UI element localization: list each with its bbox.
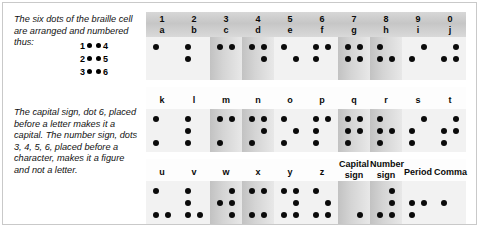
column-header-label: j xyxy=(434,25,466,35)
braille-dot-3-icon xyxy=(281,140,287,146)
braille-dot-4-icon xyxy=(357,116,363,122)
column-header-top: 6 xyxy=(306,14,338,24)
braille-cell-h xyxy=(370,37,402,80)
braille-chart-figure: The six dots of the braille cell are arr… xyxy=(0,0,479,227)
column-header-top: 9 xyxy=(402,14,434,24)
braille-dot-5-icon xyxy=(389,128,395,134)
braille-cell-l xyxy=(178,109,210,152)
braille-dot-3-icon xyxy=(249,212,255,218)
braille-dot-2-icon xyxy=(409,56,415,62)
braille-dot-grid xyxy=(338,37,370,80)
braille-dot-4-icon xyxy=(229,44,235,50)
braille-dot-1-icon xyxy=(185,116,191,122)
braille-dot-2-icon xyxy=(377,128,383,134)
braille-dot-2-icon xyxy=(313,56,319,62)
braille-cell-m xyxy=(210,109,242,152)
table-header-row: 1a2b3c4d5e6f7g8h9i0j xyxy=(146,12,466,37)
braille-dot-4-icon xyxy=(453,116,459,122)
braille-dot-1-icon xyxy=(345,44,351,50)
explanatory-text-panel: The six dots of the braille cell are arr… xyxy=(14,14,142,214)
braille-cell-x xyxy=(242,181,274,224)
braille-cell-p xyxy=(306,109,338,152)
braille-dot-6-icon xyxy=(293,212,299,218)
braille-dot-grid xyxy=(210,109,242,152)
braille-dot-1-icon xyxy=(377,116,383,122)
braille-cell-q xyxy=(338,109,370,152)
braille-cell-number-sign xyxy=(370,181,402,224)
braille-dot-grid xyxy=(274,109,306,152)
braille-cell-row xyxy=(146,181,466,224)
legend-right-number: 4 xyxy=(103,41,112,51)
column-header-label: c xyxy=(210,25,242,35)
braille-dot-grid xyxy=(210,37,242,80)
braille-cell-o xyxy=(274,109,306,152)
braille-dot-grid xyxy=(402,181,434,224)
braille-dot-4-icon xyxy=(357,44,363,50)
braille-dot-grid xyxy=(306,37,338,80)
legend-left-number: 1 xyxy=(76,41,85,51)
braille-dot-5-icon xyxy=(293,128,299,134)
braille-dot-1-icon xyxy=(313,116,319,122)
braille-dot-4-icon xyxy=(229,116,235,122)
legend-row: 36 xyxy=(76,66,142,77)
column-header-top: 7 xyxy=(338,14,370,24)
braille-dot-3-icon xyxy=(345,140,351,146)
braille-dot-4-icon xyxy=(229,188,235,194)
legend-row: 25 xyxy=(76,53,142,64)
braille-dot-1-icon xyxy=(217,116,223,122)
braille-dot-grid xyxy=(402,37,434,80)
braille-dot-grid xyxy=(178,181,210,224)
legend-left-number: 2 xyxy=(76,54,85,64)
braille-dot-3-icon xyxy=(185,212,191,218)
braille-dot-4-icon xyxy=(389,188,395,194)
legend-right-number: 5 xyxy=(103,54,112,64)
column-header-label: m xyxy=(210,95,242,105)
column-header-label: s xyxy=(402,95,434,105)
braille-dot-3-icon xyxy=(313,212,319,218)
braille-cell-comma xyxy=(434,181,466,224)
braille-dot-2-icon xyxy=(345,56,351,62)
column-header-label: v xyxy=(178,167,210,177)
legend-right-number: 6 xyxy=(103,67,112,77)
table-header-row: uvwxyzCapitalsignNumbersignPeriodComma xyxy=(146,159,466,181)
braille-cell-s xyxy=(402,109,434,152)
braille-dot-1-icon xyxy=(153,116,159,122)
braille-dot-5-icon xyxy=(357,128,363,134)
braille-dot-4-icon xyxy=(325,44,331,50)
legend-dot-icon xyxy=(87,69,92,74)
braille-dot-grid xyxy=(370,181,402,224)
braille-cell-v xyxy=(178,181,210,224)
braille-dot-2-icon xyxy=(185,128,191,134)
braille-dot-grid xyxy=(434,37,466,80)
braille-cell-u xyxy=(146,181,178,224)
braille-dot-1-icon xyxy=(153,44,159,50)
column-header-top: Capital xyxy=(338,159,370,169)
braille-dot-1-icon xyxy=(281,116,287,122)
braille-cell-w xyxy=(210,181,242,224)
braille-cell-numbering-legend: 142536 xyxy=(76,40,142,79)
braille-dot-4-icon xyxy=(293,188,299,194)
braille-dot-4-icon xyxy=(421,116,427,122)
column-header-label: sign xyxy=(370,170,402,180)
braille-dot-4-icon xyxy=(453,44,459,50)
braille-cell-row xyxy=(146,37,466,80)
braille-dot-grid xyxy=(146,109,178,152)
braille-dot-3-icon xyxy=(409,212,415,218)
column-header-label: g xyxy=(338,25,370,35)
column-header-label: i xyxy=(402,25,434,35)
braille-dot-5-icon xyxy=(261,128,267,134)
braille-cell-i xyxy=(402,37,434,80)
braille-dot-5-icon xyxy=(357,56,363,62)
braille-dot-3-icon xyxy=(217,140,223,146)
braille-cell-g xyxy=(338,37,370,80)
braille-dot-2-icon xyxy=(313,128,319,134)
braille-dot-5-icon xyxy=(293,56,299,62)
column-header-label: Comma xyxy=(434,167,466,177)
braille-cell-f xyxy=(306,37,338,80)
braille-dot-3-icon xyxy=(409,140,415,146)
braille-dot-1-icon xyxy=(249,116,255,122)
legend-dot-icon xyxy=(96,43,101,48)
braille-dot-6-icon xyxy=(357,212,363,218)
braille-dot-4-icon xyxy=(325,116,331,122)
braille-dot-grid xyxy=(146,181,178,224)
